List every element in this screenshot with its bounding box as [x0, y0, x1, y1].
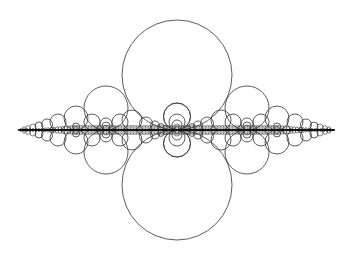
lower-circle	[112, 130, 128, 146]
lower-circle	[253, 130, 269, 146]
nested-lower-circle	[169, 130, 185, 146]
large-circle	[122, 20, 232, 130]
lower-circle	[84, 130, 128, 174]
nested-upper-circle	[169, 114, 185, 130]
upper-circle	[225, 86, 269, 130]
nested-upper-circle	[172, 120, 182, 130]
upper-circle	[253, 114, 269, 130]
fractal-circle-diagram	[0, 0, 353, 255]
large-circle	[122, 130, 232, 240]
upper-circle	[84, 86, 128, 130]
upper-circle	[112, 114, 128, 130]
lower-circle	[225, 130, 269, 174]
nested-lower-circle	[172, 130, 182, 140]
